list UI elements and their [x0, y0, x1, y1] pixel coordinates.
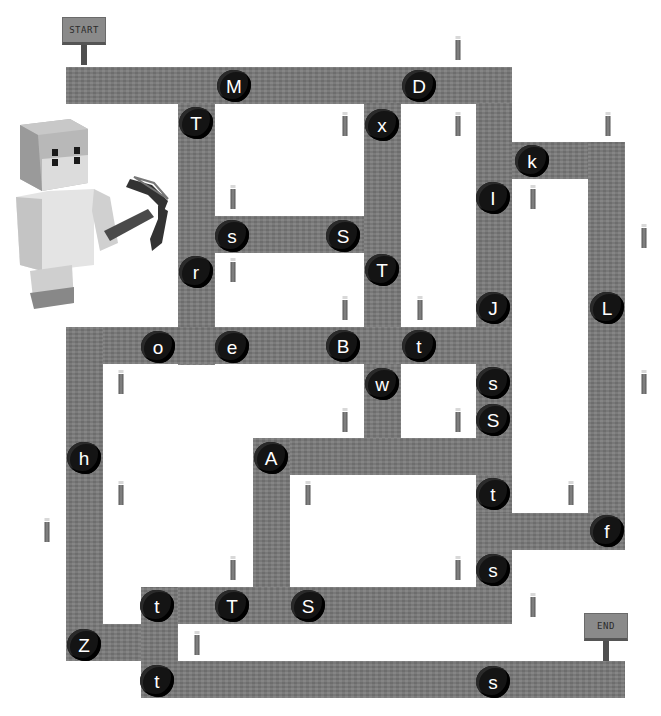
coal-letter-icon: x	[365, 109, 399, 141]
torch-stick	[642, 374, 647, 394]
coal-letter-icon: t	[402, 330, 436, 362]
maze-path-segment	[141, 587, 512, 624]
torch-flame	[119, 370, 124, 373]
torch-stick	[418, 300, 423, 320]
coal-letter-icon: L	[590, 292, 624, 324]
coal-letter-icon: Z	[67, 629, 101, 661]
torch-flame	[306, 481, 311, 484]
torch-flame	[456, 408, 461, 411]
torch-icon	[456, 408, 461, 432]
torch-flame	[343, 408, 348, 411]
torch-stick	[343, 412, 348, 432]
sign-post	[81, 45, 87, 65]
torch-icon	[343, 296, 348, 320]
maze-path-segment	[364, 103, 401, 475]
coal-letter-icon: I	[476, 182, 510, 214]
coal-letter-icon: D	[402, 70, 436, 102]
torch-flame	[456, 556, 461, 559]
torch-stick	[642, 228, 647, 248]
torch-flame	[531, 185, 536, 188]
coal-letter-icon: o	[141, 331, 175, 363]
coal-letter-icon: t	[140, 665, 174, 697]
torch-icon	[456, 36, 461, 60]
torch-stick	[306, 485, 311, 505]
torch-icon	[606, 112, 611, 136]
coal-letter-icon: S	[476, 404, 510, 436]
end-sign-label: END	[584, 613, 628, 641]
torch-icon	[119, 370, 124, 394]
torch-icon	[343, 408, 348, 432]
start-sign-label: START	[62, 17, 106, 45]
coal-letter-icon: s	[476, 554, 510, 586]
torch-stick	[531, 597, 536, 617]
torch-icon	[306, 481, 311, 505]
torch-stick	[195, 635, 200, 655]
sign-post	[603, 641, 609, 661]
torch-stick	[569, 485, 574, 505]
torch-icon	[642, 224, 647, 248]
torch-stick	[119, 374, 124, 394]
torch-stick	[456, 412, 461, 432]
coal-letter-icon: S	[326, 220, 360, 252]
torch-icon	[531, 185, 536, 209]
torch-stick	[343, 300, 348, 320]
coal-letter-icon: t	[476, 478, 510, 510]
coal-letter-icon: S	[291, 590, 325, 622]
coal-letter-icon: J	[476, 292, 510, 324]
torch-stick	[45, 522, 50, 542]
torch-flame	[231, 556, 236, 559]
torch-flame	[343, 112, 348, 115]
coal-letter-icon: T	[215, 590, 249, 622]
steve-character-icon	[12, 115, 172, 315]
torch-flame	[569, 481, 574, 484]
torch-flame	[642, 224, 647, 227]
torch-flame	[343, 296, 348, 299]
torch-flame	[456, 112, 461, 115]
coal-letter-icon: r	[179, 256, 213, 288]
torch-stick	[231, 189, 236, 209]
torch-icon	[456, 556, 461, 580]
coal-letter-icon: T	[179, 107, 213, 139]
torch-icon	[642, 370, 647, 394]
torch-flame	[418, 296, 423, 299]
maze-path-segment	[178, 103, 215, 365]
torch-flame	[231, 185, 236, 188]
coal-letter-icon: k	[515, 145, 549, 177]
torch-stick	[231, 560, 236, 580]
torch-icon	[119, 481, 124, 505]
torch-icon	[418, 296, 423, 320]
torch-icon	[456, 112, 461, 136]
torch-stick	[531, 189, 536, 209]
torch-flame	[45, 518, 50, 521]
coal-letter-icon: T	[365, 254, 399, 286]
torch-flame	[531, 593, 536, 596]
maze-path-segment	[66, 327, 103, 661]
coal-letter-icon: t	[140, 590, 174, 622]
coal-letter-icon: A	[254, 442, 288, 474]
maze-path-segment	[588, 142, 625, 550]
maze-path-segment	[66, 327, 512, 364]
coal-letter-icon: w	[365, 368, 399, 400]
torch-flame	[119, 481, 124, 484]
coal-letter-icon: B	[326, 330, 360, 362]
coal-letter-icon: e	[215, 331, 249, 363]
torch-stick	[456, 560, 461, 580]
torch-icon	[231, 185, 236, 209]
coal-letter-icon: h	[67, 442, 101, 474]
torch-stick	[343, 116, 348, 136]
torch-flame	[606, 112, 611, 115]
torch-stick	[456, 40, 461, 60]
coal-letter-icon: f	[590, 515, 624, 547]
maze-path-segment	[253, 438, 512, 475]
coal-letter-icon: s	[215, 220, 249, 252]
torch-stick	[119, 485, 124, 505]
torch-flame	[195, 631, 200, 634]
torch-icon	[45, 518, 50, 542]
torch-icon	[531, 593, 536, 617]
torch-icon	[231, 556, 236, 580]
coal-letter-icon: s	[476, 367, 510, 399]
torch-icon	[195, 631, 200, 655]
torch-icon	[569, 481, 574, 505]
torch-icon	[343, 112, 348, 136]
coal-letter-icon: M	[217, 70, 251, 102]
